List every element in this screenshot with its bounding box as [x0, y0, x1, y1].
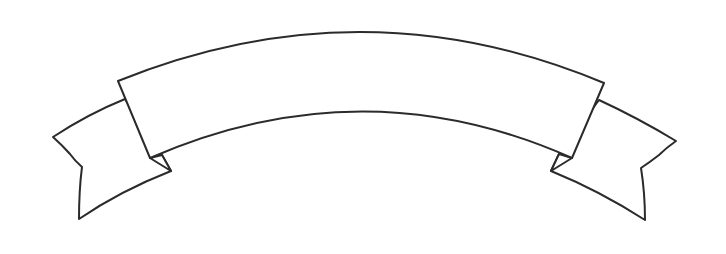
main-band [118, 32, 604, 158]
ribbon-banner-canvas [0, 0, 726, 254]
ribbon-banner-icon [0, 0, 726, 254]
